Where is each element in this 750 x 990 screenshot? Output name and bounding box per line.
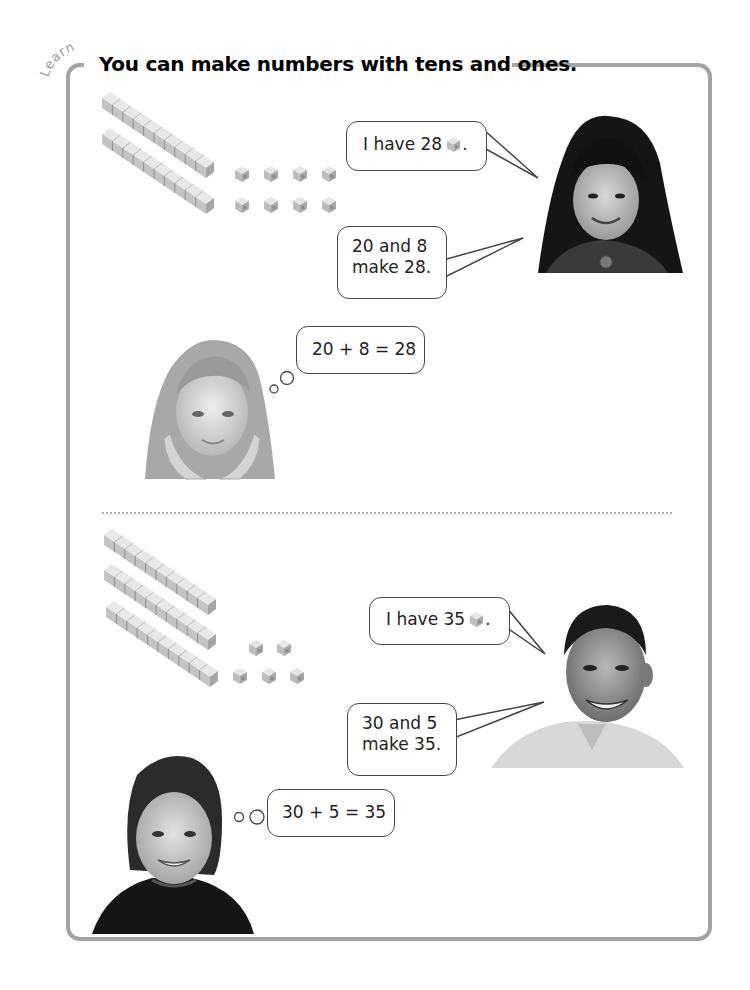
speech-line: 20 and 8 — [352, 236, 446, 257]
speech-bubble-30-and-5: 30 and 5 make 35. — [347, 703, 457, 776]
svg-text:Learn: Learn — [38, 40, 77, 79]
photo-girl-dark-sweater — [92, 750, 256, 934]
thought-bubble-20-plus-8: 20 + 8 = 28 — [296, 326, 425, 374]
photo-girl-hands-on-cheeks — [140, 334, 280, 482]
tens-rods-section2 — [104, 529, 224, 699]
speech-punct: . — [462, 134, 467, 154]
speech-bubble-i-have-28: I have 28. — [346, 121, 487, 171]
ones-cubes-section1 — [235, 166, 345, 220]
speech-line: make 28. — [352, 257, 446, 278]
speech-text: I have 35 — [386, 609, 465, 629]
page-title: You can make numbers with tens and ones. — [99, 52, 577, 76]
speech-tail — [443, 236, 525, 286]
ones-cubes-section2 — [233, 640, 313, 690]
photo-boy-smiling — [486, 600, 686, 770]
learn-tag: Learn — [38, 40, 98, 80]
speech-text: I have 28 — [363, 134, 442, 154]
speech-bubble-20-and-8: 20 and 8 make 28. — [337, 226, 447, 299]
thought-circles — [230, 806, 270, 828]
section-divider — [102, 512, 672, 514]
thought-equation: 30 + 5 = 35 — [282, 802, 386, 822]
thought-circles — [268, 368, 298, 396]
photo-girl-dark-hair — [518, 108, 688, 276]
speech-line: make 35. — [362, 734, 456, 755]
unit-cube-icon — [469, 612, 484, 627]
learn-tag-text: Learn — [38, 40, 77, 79]
unit-cube-icon — [446, 137, 461, 152]
thought-bubble-30-plus-5: 30 + 5 = 35 — [267, 789, 395, 837]
speech-line: 30 and 5 — [362, 713, 456, 734]
tens-rods-section1 — [102, 92, 222, 232]
thought-equation: 20 + 8 = 28 — [312, 339, 416, 359]
